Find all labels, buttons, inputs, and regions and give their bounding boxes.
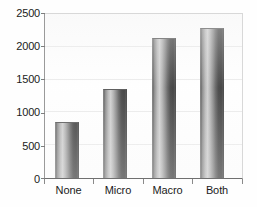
plot-area (44, 13, 243, 179)
bar-none[interactable] (55, 122, 79, 178)
y-tick-mark-1500 (41, 79, 45, 80)
y-axis: 2500 2000 1500 1000 500 0 (0, 0, 40, 207)
y-tick-label-0: 0 (34, 174, 40, 185)
bar-chart: 2500 2000 1500 1000 500 0 None Micro Mac… (0, 0, 257, 207)
y-tick-mark-1000 (41, 113, 45, 114)
bar-macro[interactable] (152, 38, 176, 178)
x-tick-mark-right-edge (242, 179, 243, 184)
bar-both[interactable] (200, 28, 224, 178)
x-tick-label-both: Both (192, 184, 242, 196)
y-tick-mark-2500 (41, 13, 45, 14)
y-tick-label-500: 500 (22, 141, 40, 152)
x-tick-label-macro: Macro (143, 184, 192, 196)
y-tick-label-1500: 1500 (16, 74, 40, 85)
bar-micro[interactable] (103, 89, 127, 179)
y-tick-label-1000: 1000 (16, 107, 40, 118)
x-tick-label-micro: Micro (93, 184, 143, 196)
x-tick-label-none: None (44, 184, 93, 196)
y-tick-label-2000: 2000 (16, 41, 40, 52)
y-tick-label-2500: 2500 (16, 8, 40, 19)
y-tick-mark-2000 (41, 46, 45, 47)
y-tick-mark-500 (41, 146, 45, 147)
